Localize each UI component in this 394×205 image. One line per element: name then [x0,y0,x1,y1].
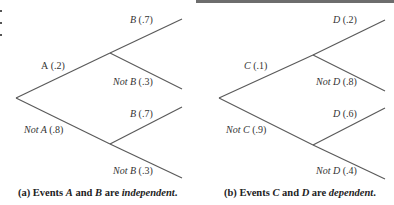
label-a-not-b: Not B (.3) [113,76,153,88]
tree-b-lines [219,20,385,179]
caption-b: (b) Events C and D are dependent. [224,187,376,198]
label-a-b: B (.7) [130,14,153,26]
label-c-d: D (.2) [333,14,357,26]
label-not-a-b: B (.7) [130,108,153,120]
label-not-a-not-b: Not B (.3) [113,165,153,177]
label-c: C (.1) [244,60,267,72]
label-not-c: Not C (.9) [226,124,266,136]
caption-a: (a) Events A and B are independent. [18,187,177,198]
branch-not-a [16,98,110,144]
tree-a-lines [16,19,182,178]
label-not-c-not-d: Not D (.4) [316,165,357,177]
label-not-a: Not A (.8) [24,124,63,136]
branch-not-c [219,98,313,145]
label-c-not-d: Not D (.8) [316,76,357,88]
label-not-c-d: D (.6) [333,108,357,120]
label-a: A (.2) [41,60,65,72]
